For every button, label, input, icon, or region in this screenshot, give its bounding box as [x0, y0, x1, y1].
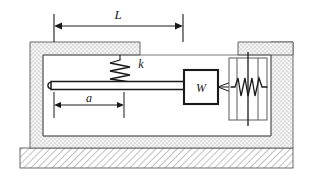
block-W-label: W — [196, 81, 207, 95]
dimension-a: a — [54, 91, 124, 118]
dimension-a-label: a — [86, 91, 92, 105]
dimension-L: L — [54, 7, 183, 42]
block-W: W — [184, 70, 218, 104]
mechanical-schematic-svg: L k a — [0, 0, 311, 179]
figure-root: L k a — [0, 0, 311, 179]
spring-k-label: k — [138, 57, 144, 71]
damper-assembly — [229, 52, 267, 126]
rod-lever — [48, 82, 185, 90]
ground-hatching — [20, 148, 293, 168]
dimension-L-label: L — [113, 7, 121, 22]
